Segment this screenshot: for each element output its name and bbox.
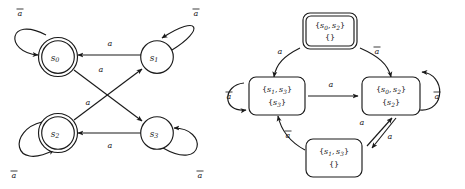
edge-s2-to-s1: a: [74, 69, 142, 120]
edge-dfa-top-to-right: a: [360, 47, 391, 77]
dfa-state-left-line2: {s3}: [268, 98, 286, 108]
self-loop-dfa-right: a: [420, 72, 441, 110]
edge-label-dfa-top-right: a: [374, 47, 381, 56]
edge-dfa-left-right-label: a: [329, 80, 334, 89]
dfa-loop-left-label: a: [227, 92, 232, 101]
edge-s3-s2-label: a: [108, 141, 113, 150]
figure-canvas: a a a a: [0, 0, 465, 189]
dfa-state-top-line1: {s0, s2}: [315, 21, 345, 31]
state-s3[interactable]: s3: [141, 117, 174, 150]
edge-label-loop-s0: a: [17, 9, 24, 18]
edge-dfa-top-to-left: a: [274, 47, 300, 77]
automata-figure: a a a a: [0, 0, 465, 189]
loop-s2-label: a: [12, 171, 17, 180]
self-loop-dfa-left: a: [226, 83, 247, 110]
edge-dfa-top-left-label: a: [278, 47, 283, 56]
edge-dfa-right-to-bottom: a: [372, 118, 396, 148]
loop-s1-label: a: [194, 9, 199, 18]
edge-s3-to-s2: a: [78, 133, 142, 150]
left-automaton: a a a a: [11, 9, 204, 180]
dfa-state-top[interactable]: {s0, s2} {}: [303, 13, 357, 49]
dfa-state-right-line1: {s0, s2}: [376, 85, 406, 95]
right-automaton: a a a a a: [226, 13, 441, 177]
edge-s1-s0-label: a: [108, 39, 113, 48]
state-s1[interactable]: s1: [141, 41, 174, 74]
dfa-state-left[interactable]: {s1, s3} {s3}: [249, 77, 305, 115]
dfa-state-bottom-line2: {}: [329, 160, 339, 169]
edge-s0-s3-label: a: [99, 65, 104, 74]
edge-dfa-right-bottom-label: a: [388, 132, 393, 141]
edge-dfa-bottom-left-label: a: [286, 131, 291, 140]
edge-dfa-left-to-right: a: [308, 80, 358, 96]
edge-label-loop-s3: a: [197, 171, 204, 180]
edge-s2-s1-label: a: [86, 98, 91, 107]
self-loop-s1: a: [162, 9, 200, 50]
dfa-state-bottom-line1: {s1, s3}: [319, 147, 349, 157]
loop-s3-label: a: [198, 171, 203, 180]
dfa-state-top-line2: {}: [325, 33, 335, 42]
loop-s0-label: a: [18, 9, 23, 18]
edge-dfa-bottom-to-left: a: [278, 116, 305, 150]
edge-label-loop-s2: a: [11, 171, 18, 180]
state-s2[interactable]: s2: [39, 114, 78, 153]
dfa-loop-right-label: a: [435, 92, 440, 101]
dfa-state-right[interactable]: {s0, s2} {s2}: [362, 77, 420, 115]
state-s0[interactable]: s0: [39, 38, 78, 77]
dfa-state-bottom[interactable]: {s1, s3} {}: [306, 139, 362, 177]
edge-label-loop-s1: a: [193, 9, 200, 18]
edge-s1-to-s0: a: [78, 39, 142, 55]
edge-dfa-bottom-right-label: a: [360, 118, 365, 127]
dfa-state-right-line2: {s2}: [382, 98, 400, 108]
dfa-state-left-line1: {s1, s3}: [262, 85, 292, 95]
edge-dfa-top-right-label: a: [375, 47, 380, 56]
edge-label-dfa-loop-left: a: [226, 92, 233, 101]
